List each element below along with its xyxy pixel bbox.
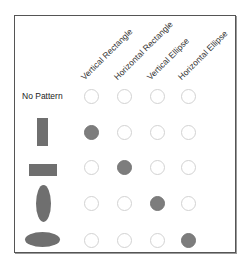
empty-circle-icon [150, 89, 165, 104]
empty-circle-icon [117, 196, 132, 211]
filled-circle-icon [181, 233, 196, 248]
empty-circle-icon [117, 233, 132, 248]
empty-circle-icon [181, 125, 196, 140]
empty-circle-icon [117, 125, 132, 140]
vertical-ellipse-shape [36, 185, 51, 222]
empty-circle-icon [181, 196, 196, 211]
horizontal-ellipse-shape [25, 232, 60, 247]
vertical-rectangle-shape [37, 118, 48, 146]
empty-circle-icon [84, 233, 99, 248]
empty-circle-icon [150, 125, 165, 140]
empty-circle-icon [84, 160, 99, 175]
row-label-no-pattern: No Pattern [22, 91, 63, 101]
empty-circle-icon [150, 160, 165, 175]
filled-circle-icon [150, 196, 165, 211]
filled-circle-icon [117, 160, 132, 175]
empty-circle-icon [117, 89, 132, 104]
empty-circle-icon [150, 233, 165, 248]
filled-circle-icon [84, 125, 99, 140]
empty-circle-icon [84, 196, 99, 211]
empty-circle-icon [181, 89, 196, 104]
empty-circle-icon [84, 89, 99, 104]
empty-circle-icon [181, 160, 196, 175]
horizontal-rectangle-shape [29, 164, 57, 176]
